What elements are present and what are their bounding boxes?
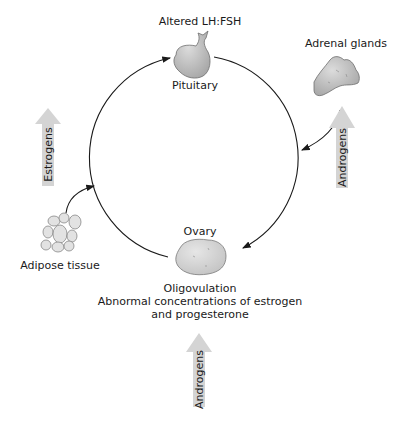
ovary-label-line-1: Oligovulation <box>100 282 300 295</box>
adrenal-to-cycle-arrow <box>302 110 340 150</box>
pituitary-top-label: Altered LH:FSH <box>150 15 250 28</box>
adrenal-label: Adrenal glands <box>296 37 396 50</box>
ovary-icon <box>176 239 226 274</box>
androgens-ovary-label: Androgens <box>193 349 206 411</box>
pituitary-label: Pituitary <box>150 79 240 92</box>
pituitary-icon <box>174 31 210 78</box>
ovary-label-line-2: Abnormal concentrations of estrogen <box>80 295 320 308</box>
adipose-label: Adipose tissue <box>10 259 110 272</box>
adrenal-gland-icon <box>314 57 359 96</box>
ovary-label-line-3: and progesterone <box>100 308 300 321</box>
androgens-adrenal-label: Androgens <box>336 127 349 189</box>
estrogens-label: Estrogens <box>42 125 55 185</box>
adipose-to-cycle-arrow <box>66 186 94 213</box>
adipose-tissue-icon <box>41 213 81 252</box>
ovary-top-label: Ovary <box>170 225 230 238</box>
